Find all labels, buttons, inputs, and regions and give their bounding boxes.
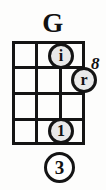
marker-index-finger: i — [48, 43, 74, 69]
fret-line-3 — [12, 118, 85, 121]
fret-line-1 — [12, 66, 85, 69]
chord-name-label: G — [0, 8, 106, 38]
fret-line-2 — [12, 92, 85, 95]
bottom-string-number-badge: 3 — [44, 152, 75, 183]
chord-diagram-card: G i r 1 8 3 — [0, 0, 106, 190]
fret-position-number: 8 — [91, 55, 100, 72]
marker-fret-one: 1 — [48, 118, 74, 144]
string-line-2 — [35, 41, 38, 145]
